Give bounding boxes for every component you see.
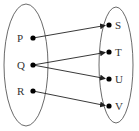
label-u: U: [115, 73, 123, 85]
dot-v: [106, 103, 111, 108]
label-q: Q: [17, 59, 25, 71]
dot-t: [106, 49, 111, 54]
codomain-elements: S T U V: [106, 19, 123, 112]
dot-r: [30, 88, 35, 93]
label-p: P: [17, 32, 23, 44]
label-s: S: [115, 19, 121, 31]
arrow-r-to-v: [33, 91, 105, 106]
arrow-q-to-t: [33, 53, 105, 66]
label-t: T: [115, 46, 122, 58]
label-v: V: [115, 100, 123, 112]
arrows: [33, 26, 105, 106]
dot-p: [30, 35, 35, 40]
label-r: R: [17, 85, 25, 97]
mapping-diagram: P Q R S T U V: [0, 0, 139, 131]
arrow-p-to-s: [33, 26, 105, 39]
domain-set-ellipse: [4, 4, 48, 126]
dot-s: [106, 22, 111, 27]
dot-u: [106, 76, 111, 81]
arrow-q-to-u: [33, 65, 105, 79]
domain-elements: P Q R: [17, 32, 36, 97]
dot-q: [30, 62, 35, 67]
